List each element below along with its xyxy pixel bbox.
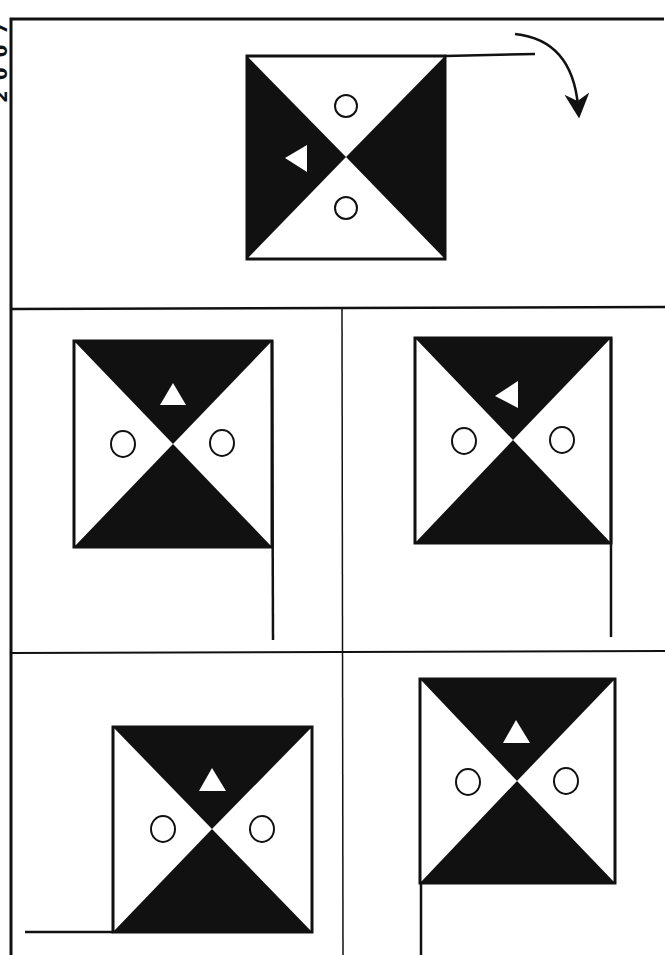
option-d-flag[interactable] [420,679,615,955]
option-a-flag[interactable] [74,341,273,640]
option-b-flag[interactable] [415,338,611,637]
flag-pole [445,54,535,56]
option-c-flag[interactable] [25,727,312,932]
flag-pole [272,341,273,640]
question-flag [247,54,535,259]
rotate-clockwise-arrow-icon [515,34,578,106]
